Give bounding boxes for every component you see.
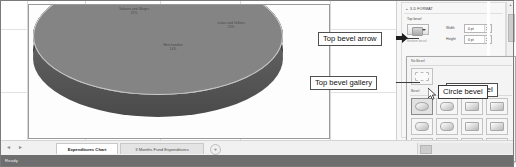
expander-triangle-icon[interactable]: ▴ bbox=[406, 7, 408, 12]
scrollbar-thumb[interactable] bbox=[508, 14, 515, 42]
grid-column-line bbox=[330, 0, 331, 140]
section-header-3d-format[interactable]: ▴3-D FORMAT bbox=[406, 7, 433, 12]
mouse-cursor-icon bbox=[428, 88, 437, 100]
bevel-thumb-relaxed-inset[interactable] bbox=[436, 98, 458, 115]
gallery-group-bevel-label: Bevel bbox=[411, 89, 419, 94]
bevel-thumb-cross[interactable] bbox=[461, 98, 483, 115]
pie-chart-3d: Salaries and Wages 32% Merchandise 14% L… bbox=[28, 4, 311, 139]
worksheet-area[interactable]: Salaries and Wages 32% Merchandise 14% L… bbox=[0, 0, 396, 140]
scrollbar-thumb[interactable] bbox=[420, 145, 432, 154]
bevel-thumb-divot[interactable] bbox=[486, 118, 508, 135]
height-label: Height bbox=[446, 37, 456, 42]
bevel-thumb-circle[interactable] bbox=[411, 98, 433, 115]
gallery-divider bbox=[410, 65, 512, 66]
callout-top-bevel-arrow: Top bevel arrow bbox=[318, 32, 382, 46]
width-value: 0 pt bbox=[468, 26, 474, 32]
bevel-thumb-soft-round[interactable] bbox=[411, 118, 433, 135]
top-bevel-label: Top bevel bbox=[407, 17, 422, 22]
horizontal-scrollbar[interactable] bbox=[417, 143, 514, 154]
height-value: 0 pt bbox=[468, 37, 474, 43]
chevron-down-icon[interactable] bbox=[422, 29, 426, 31]
bevel-thumb-slope[interactable] bbox=[461, 118, 483, 135]
callout-top-bevel-gallery: Top bevel gallery bbox=[310, 76, 377, 90]
sheet-next-icon[interactable]: ► bbox=[18, 144, 23, 150]
bevel-thumb-convex[interactable] bbox=[436, 118, 458, 135]
width-label: Width bbox=[446, 26, 455, 31]
status-bar: Ready bbox=[0, 155, 514, 167]
sheet-nav-buttons[interactable]: ◄ ► bbox=[6, 144, 23, 150]
bevel-tooltip: Circle bevel bbox=[438, 85, 488, 99]
pie-data-label: Salaries and Wages 32% bbox=[107, 7, 161, 16]
callout-leader-line bbox=[396, 82, 420, 83]
pie-data-label: Lease and Utilities 25% bbox=[207, 21, 255, 30]
sheet-tab-expenditures-chart[interactable]: Expenditures Chart bbox=[56, 143, 118, 154]
add-sheet-button[interactable]: + bbox=[210, 144, 221, 155]
section-title: 3-D FORMAT bbox=[410, 7, 433, 11]
top-bevel-dropdown-button[interactable] bbox=[407, 24, 429, 35]
bevel-thumb-angle[interactable] bbox=[486, 98, 508, 115]
sheet-tab-bar[interactable]: ◄ ► Expenditures Chart 3 Months Fund Exp… bbox=[0, 140, 514, 156]
gallery-group-no-bevel-label: No Bevel bbox=[411, 59, 425, 64]
sheet-prev-icon[interactable]: ◄ bbox=[6, 144, 11, 150]
chart-object[interactable]: Salaries and Wages 32% Merchandise 14% L… bbox=[28, 4, 330, 139]
pie-data-label: Merchandise 14% bbox=[151, 43, 195, 52]
status-text: Ready bbox=[5, 157, 18, 164]
bottom-bevel-label: Bottom bevel bbox=[407, 39, 427, 44]
sheet-tab-3-months-fund-expenditures[interactable]: 3 Months Fund Expenditures bbox=[120, 143, 204, 154]
callout-arrowhead-icon bbox=[396, 33, 408, 43]
scroll-up-icon[interactable]: ▲ bbox=[508, 3, 513, 8]
